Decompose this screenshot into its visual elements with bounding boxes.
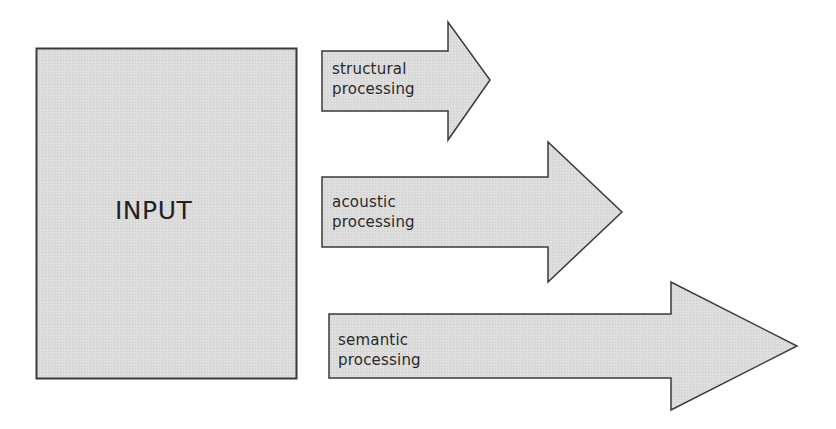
arrow-semantic-label: semantic processing [338, 330, 421, 370]
arrow-semantic-label-line1: semantic [338, 330, 421, 350]
arrow-structural-label-line2: processing [332, 79, 415, 99]
arrow-acoustic-label-line2: processing [332, 212, 415, 232]
arrow-structural-label: structural processing [332, 59, 415, 99]
arrow-structural-label-line1: structural [332, 59, 415, 79]
input-box-label: INPUT [115, 196, 192, 225]
arrow-acoustic-label-line1: acoustic [332, 192, 415, 212]
arrow-semantic-label-line2: processing [338, 350, 421, 370]
arrow-acoustic-label: acoustic processing [332, 192, 415, 232]
